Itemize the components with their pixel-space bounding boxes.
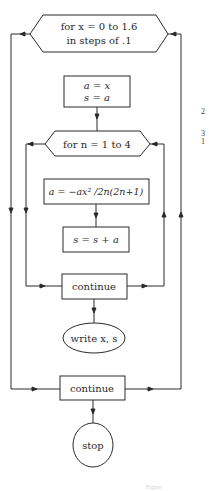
- init-line1: a = x: [84, 80, 111, 91]
- update-s-label: s = s + a: [73, 234, 119, 245]
- outer-continue-label: continue: [70, 383, 114, 394]
- write-label: write x, s: [71, 333, 118, 344]
- figure-caption: Figure: [146, 484, 162, 490]
- stop-label: stop: [82, 440, 104, 451]
- update-a-label: a = −ax² /2n(2n+1): [49, 186, 144, 197]
- init-line2: s = a: [84, 92, 110, 103]
- outer-loop-line2: in steps of .1: [66, 35, 131, 46]
- inner-continue-label: continue: [72, 281, 116, 292]
- flowchart-canvas: for x = 0 to 1.6 in steps of .1 a = x s …: [0, 0, 217, 491]
- outer-loop-line1: for x = 0 to 1.6: [61, 21, 138, 32]
- margin-number-3: 1: [201, 137, 205, 146]
- inner-loop-label: for n = 1 to 4: [63, 139, 131, 150]
- margin-number-1: 2: [201, 107, 205, 116]
